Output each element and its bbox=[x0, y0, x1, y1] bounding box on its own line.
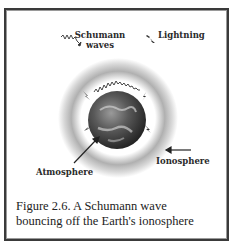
ionosphere-label: Ionosphere bbox=[156, 156, 210, 166]
schumann-waves-label: Schumann waves bbox=[70, 30, 130, 50]
atmosphere-label: Atmosphere bbox=[36, 167, 93, 177]
lightning-label: Lightning bbox=[158, 30, 205, 40]
ionosphere-arrow-icon bbox=[166, 147, 191, 153]
lightning-bolt-icon bbox=[146, 35, 155, 43]
figure-caption: Figure 2.6. A Schumann wave bouncing off… bbox=[16, 199, 221, 229]
